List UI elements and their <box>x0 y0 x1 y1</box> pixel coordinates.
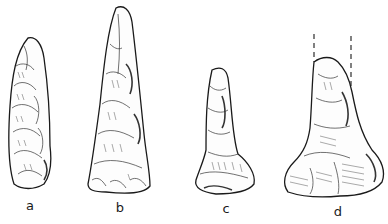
artifact-plate: a b <box>0 0 388 224</box>
artifact-d-drawing <box>280 32 388 204</box>
artifact-a-drawing <box>4 36 54 190</box>
label-c: c <box>216 201 236 216</box>
label-d: d <box>328 204 348 219</box>
artifact-b-drawing <box>84 4 154 196</box>
label-a: a <box>20 198 40 213</box>
artifact-c-drawing <box>192 66 260 196</box>
label-b: b <box>110 200 130 215</box>
